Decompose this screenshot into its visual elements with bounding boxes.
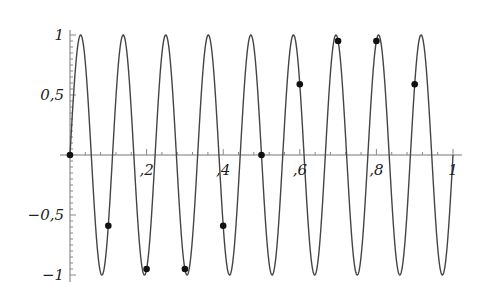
sine-aliasing-chart: ,2,4,6,8110,5−0,5−1 (0, 0, 483, 298)
sample-point (297, 81, 304, 88)
sample-point (182, 266, 189, 273)
sample-point (335, 38, 342, 45)
y-tick-label: 1 (54, 26, 64, 44)
sample-point (258, 152, 265, 159)
sample-point (143, 266, 150, 273)
x-tick-label: 1 (448, 161, 458, 179)
sample-point (105, 223, 112, 230)
y-tick-label: 0,5 (40, 86, 64, 104)
y-tick-label: −1 (42, 266, 64, 284)
sample-point (220, 223, 227, 230)
x-tick-label: ,8 (369, 161, 383, 179)
x-tick-label: ,4 (216, 161, 230, 179)
x-tick-label: ,6 (293, 161, 308, 179)
sample-point (411, 81, 418, 88)
x-tick-label: ,2 (139, 161, 153, 179)
sample-point (67, 152, 74, 159)
sample-point (373, 38, 380, 45)
y-tick-label: −0,5 (28, 206, 64, 224)
